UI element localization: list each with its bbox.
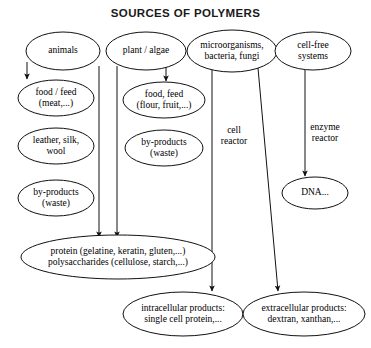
node-leather-silk[interactable]: [18, 128, 94, 164]
node-microorganisms[interactable]: [187, 30, 277, 72]
node-plant-algae[interactable]: [106, 32, 186, 70]
node-intracellular[interactable]: [123, 292, 243, 336]
node-dna[interactable]: [282, 177, 348, 209]
edge-label-enzyme-reactor-label: enzyme reactor: [285, 122, 365, 145]
node-food-feed-flour[interactable]: [123, 82, 205, 118]
node-extracellular[interactable]: [243, 292, 365, 336]
node-protein-poly[interactable]: [21, 235, 215, 279]
node-by-products-2[interactable]: [125, 130, 203, 166]
node-animals[interactable]: [26, 32, 100, 70]
diagram-canvas: SOURCES OF POLYMERS animalsplant / algae…: [0, 0, 371, 348]
nodes-layer: [18, 30, 365, 336]
edge-micro-to-extracellular: [258, 68, 278, 291]
node-food-feed-meat[interactable]: [18, 80, 94, 116]
edge-label-cell-reactor-label: cell reactor: [194, 125, 274, 148]
diagram-graph: [0, 0, 371, 348]
node-by-products-1[interactable]: [18, 180, 94, 216]
node-cell-free[interactable]: [275, 32, 351, 70]
